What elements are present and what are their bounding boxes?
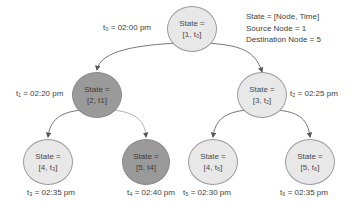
node-value: [5, t₆]	[301, 162, 320, 173]
state-node-5a: State = [5, t4]	[122, 139, 170, 185]
edge-n3-n5b	[277, 110, 310, 137]
node-value: [1, t₀]	[183, 29, 202, 40]
state-node-4b: State = [4, t₅]	[188, 139, 238, 185]
node-value: [3, t₂]	[253, 95, 272, 106]
time-label-t6: t₆ = 02:35 pm	[280, 188, 328, 197]
node-value: [2, t1]	[87, 95, 107, 106]
time-label-t5: t₅ = 02:30 pm	[183, 188, 231, 197]
state-node-4a: State = [4, t₃]	[23, 139, 73, 185]
edge-n2-n4a	[48, 110, 82, 137]
node-label: State =	[200, 151, 226, 162]
node-value: [5, t4]	[136, 162, 156, 173]
state-node-3: State = [3, t₂]	[237, 72, 287, 118]
time-label-t4: t₄ = 02:40 pm	[127, 188, 175, 197]
node-value: [4, t₃]	[39, 162, 58, 173]
node-label: State =	[133, 151, 159, 162]
node-label: State =	[179, 18, 205, 29]
time-label-t1: t₁ = 02:20 pm	[16, 89, 63, 98]
legend-destination-node: Destination Node = 5	[246, 34, 321, 46]
edge-n2-n5a	[112, 110, 146, 137]
legend: State = [Node, Time] Source Node = 1 Des…	[246, 11, 321, 46]
edge-n1-n2	[97, 43, 178, 70]
edge-n3-n4b	[213, 110, 247, 137]
legend-source-node: Source Node = 1	[246, 23, 321, 35]
legend-state-format: State = [Node, Time]	[246, 11, 321, 23]
time-label-t2: t₂ = 02:25 pm	[290, 89, 338, 98]
state-node-1: State = [1, t₀]	[167, 6, 217, 52]
state-node-2: State = [2, t1]	[72, 72, 122, 118]
edge-n1-n3	[205, 43, 262, 72]
node-label: State =	[84, 84, 110, 95]
node-label: State =	[249, 84, 275, 95]
node-value: [4, t₅]	[204, 162, 223, 173]
node-label: State =	[297, 151, 323, 162]
node-label: State =	[35, 151, 61, 162]
state-node-5b: State = [5, t₆]	[285, 139, 335, 185]
time-label-t0: t₀ = 02:00 pm	[103, 23, 151, 32]
time-label-t3: t₃ = 02:35 pm	[27, 188, 75, 197]
